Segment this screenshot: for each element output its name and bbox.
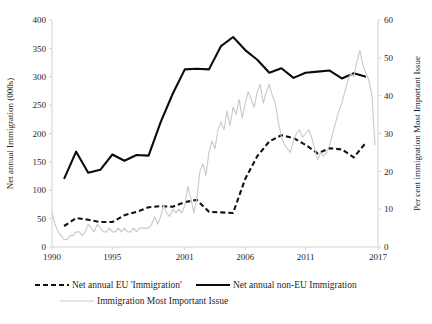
legend-label: Immigration Most Important Issue [97, 296, 228, 306]
left-tick-label: 50 [37, 214, 47, 224]
axis-left: 050100150200250300350400 [33, 15, 53, 252]
bottom-tick-label: 2006 [236, 252, 255, 262]
axis-right: 0102030405060 [378, 15, 394, 252]
left-tick-label: 300 [33, 72, 47, 82]
legend-label: Net annual non-EU Immigration [233, 280, 357, 290]
right-axis-ticks: 0102030405060 [378, 15, 394, 252]
right-tick-label: 20 [384, 167, 394, 177]
left-axis-title: Net annual Immigration (000s) [5, 78, 15, 190]
bottom-tick-label: 1990 [43, 252, 62, 262]
series-layer [52, 37, 375, 239]
series-line-1 [64, 37, 366, 179]
right-tick-label: 60 [384, 15, 394, 25]
left-axis-ticks: 050100150200250300350400 [33, 15, 53, 252]
right-tick-label: 40 [384, 91, 394, 101]
right-axis-title: Per cent immigration Most Important Issu… [412, 56, 422, 211]
left-tick-label: 150 [33, 157, 47, 167]
axis-bottom: 199019952001200620112017 [43, 247, 388, 262]
bottom-tick-label: 1995 [103, 252, 122, 262]
left-tick-label: 0 [42, 242, 47, 252]
left-tick-label: 400 [33, 15, 47, 25]
bottom-tick-label: 2011 [297, 252, 315, 262]
left-tick-label: 350 [33, 44, 47, 54]
left-tick-label: 100 [33, 185, 47, 195]
bottom-axis-ticks: 199019952001200620112017 [43, 247, 388, 262]
bottom-tick-label: 2001 [176, 252, 194, 262]
legend-label: Net annual EU 'Immigration' [72, 280, 182, 290]
bottom-tick-label: 2017 [369, 252, 388, 262]
chart-legend: Net annual EU 'Immigration'Net annual no… [35, 280, 357, 306]
right-tick-label: 30 [384, 129, 394, 139]
chart-canvas: 050100150200250300350400 0102030405060 1… [0, 0, 432, 324]
left-tick-label: 200 [33, 129, 47, 139]
right-tick-label: 50 [384, 53, 394, 63]
immigration-chart: 050100150200250300350400 0102030405060 1… [0, 0, 432, 324]
right-tick-label: 0 [384, 242, 389, 252]
right-tick-label: 10 [384, 204, 394, 214]
left-tick-label: 250 [33, 100, 47, 110]
